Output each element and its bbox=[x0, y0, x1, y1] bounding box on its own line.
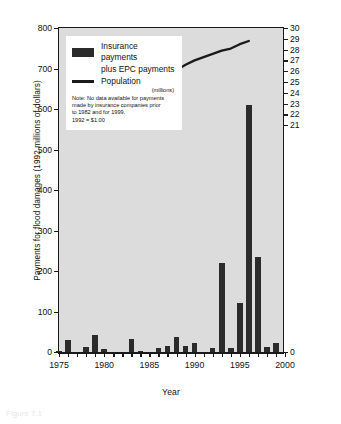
y-axis-left-tick-label: 700 bbox=[38, 64, 52, 74]
x-axis-tick bbox=[113, 352, 114, 357]
x-axis-tick bbox=[131, 352, 132, 357]
y-axis-right-tick bbox=[283, 39, 288, 40]
x-axis-tick bbox=[285, 352, 286, 357]
legend-item-bar: Insurance payments bbox=[72, 41, 176, 63]
x-axis-tick bbox=[149, 352, 150, 357]
legend-item-bar-continued: plus EPC payments bbox=[72, 64, 176, 75]
legend-bar-label-line1: Insurance payments bbox=[101, 41, 176, 63]
y-axis-right-tick bbox=[283, 60, 288, 61]
figure-caption: Figure 7.1 bbox=[6, 409, 42, 418]
x-axis-tick bbox=[158, 352, 159, 357]
y-axis-right-tick bbox=[283, 71, 288, 72]
y-axis-right-tick-label: 25 bbox=[290, 77, 300, 87]
x-axis-tick bbox=[140, 352, 141, 357]
y-axis-left-tick bbox=[54, 28, 59, 29]
x-axis-tick-label: 1995 bbox=[230, 360, 250, 370]
x-axis-tick bbox=[195, 352, 196, 357]
y-axis-left-tick bbox=[54, 190, 59, 191]
y-axis-left-tick-label: 100 bbox=[38, 307, 52, 317]
y-axis-left-tick-label: 400 bbox=[38, 185, 52, 195]
x-axis-tick bbox=[213, 352, 214, 357]
y-axis-left-tick-label: 0 bbox=[47, 347, 52, 357]
legend: Insurance payments plus EPC payments Pop… bbox=[66, 36, 182, 130]
legend-note-line: Note: No data available for payments bbox=[72, 95, 176, 102]
y-axis-right-tick-label: 24 bbox=[290, 88, 300, 98]
y-axis-left-tick bbox=[54, 271, 59, 272]
y-axis-right-tick-label: 28 bbox=[290, 45, 300, 55]
legend-line-units: (millions) bbox=[72, 87, 174, 93]
x-axis-tick bbox=[204, 352, 205, 357]
y-axis-left-tick bbox=[54, 69, 59, 70]
x-axis-tick-label: 1980 bbox=[94, 360, 114, 370]
y-axis-left-tick-label: 200 bbox=[38, 266, 52, 276]
x-axis-tick bbox=[59, 352, 60, 357]
y-axis-left-tick-label: 800 bbox=[38, 23, 52, 33]
y-axis-left-tick bbox=[54, 312, 59, 313]
x-axis-tick bbox=[68, 352, 69, 357]
y-axis-left-tick bbox=[54, 231, 59, 232]
y-axis-right-tick-label: 29 bbox=[290, 34, 300, 44]
legend-item-line: Population bbox=[72, 76, 176, 87]
y-axis-right-tick-label: 23 bbox=[290, 99, 300, 109]
legend-spacer bbox=[72, 65, 94, 74]
y-axis-right-tick bbox=[283, 125, 288, 126]
x-axis-tick-label: 1985 bbox=[140, 360, 160, 370]
y-axis-left-tick-label: 500 bbox=[38, 145, 52, 155]
x-axis-tick bbox=[167, 352, 168, 357]
legend-bar-swatch bbox=[72, 48, 94, 57]
legend-line-swatch bbox=[72, 80, 94, 82]
y-axis-left-tick bbox=[54, 109, 59, 110]
y-axis-right-tick-label: 26 bbox=[290, 66, 300, 76]
y-axis-right-tick bbox=[283, 28, 288, 29]
x-axis-tick-label: 2000 bbox=[275, 360, 295, 370]
x-axis-tick-label: 1975 bbox=[49, 360, 69, 370]
x-axis-tick bbox=[186, 352, 187, 357]
x-axis-tick bbox=[177, 352, 178, 357]
y-axis-right-tick bbox=[283, 50, 288, 51]
legend-line-label: Population bbox=[101, 76, 141, 87]
y-axis-right-tick-label: 22 bbox=[290, 109, 300, 119]
x-axis-tick bbox=[231, 352, 232, 357]
legend-note-line: made by insurance companies prior bbox=[72, 102, 176, 109]
figure-container: Payments for flood damages (1992 million… bbox=[0, 0, 341, 424]
x-axis-tick bbox=[122, 352, 123, 357]
x-axis-tick bbox=[77, 352, 78, 357]
y-axis-right-tick-label: 21 bbox=[290, 120, 300, 130]
x-axis-tick bbox=[240, 352, 241, 357]
x-axis-tick bbox=[249, 352, 250, 357]
y-axis-right-tick bbox=[283, 114, 288, 115]
x-axis-tick bbox=[86, 352, 87, 357]
x-axis-tick bbox=[222, 352, 223, 357]
legend-bar-label-line2: plus EPC payments bbox=[101, 64, 175, 75]
y-axis-left-tick bbox=[54, 150, 59, 151]
x-axis-title: Year bbox=[58, 387, 284, 397]
y-axis-right-tick-label: 27 bbox=[290, 55, 300, 65]
y-axis-left-tick-label: 300 bbox=[38, 226, 52, 236]
y-axis-right-tick bbox=[283, 104, 288, 105]
y-axis-left-tick-label: 600 bbox=[38, 104, 52, 114]
x-axis-tick bbox=[95, 352, 96, 357]
x-axis-tick bbox=[267, 352, 268, 357]
x-axis-tick bbox=[104, 352, 105, 357]
x-axis-tick bbox=[258, 352, 259, 357]
y-axis-right-tick-label: 0 bbox=[290, 347, 295, 357]
y-axis-right-tick bbox=[283, 93, 288, 94]
x-axis-tick bbox=[276, 352, 277, 357]
legend-note: Note: No data available for paymentsmade… bbox=[72, 95, 176, 124]
legend-note-line: 1992 = $1.00 bbox=[72, 117, 176, 124]
y-axis-right-tick-label: 30 bbox=[290, 23, 300, 33]
x-axis-tick-label: 1990 bbox=[185, 360, 205, 370]
legend-note-line: to 1982 and for 1999. bbox=[72, 109, 176, 116]
y-axis-right-tick bbox=[283, 82, 288, 83]
